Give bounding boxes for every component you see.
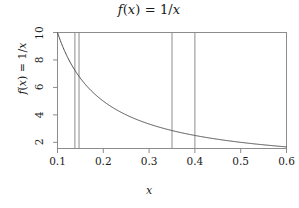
y-tick-label-4: 10 <box>32 21 46 45</box>
x-tick-label-0: 0.1 <box>38 155 78 167</box>
x-tick-label-3: 0.4 <box>175 155 215 167</box>
x-tick-label-2: 0.3 <box>129 155 169 167</box>
y-tick-label-2: 6 <box>32 75 46 99</box>
y-tick-label-0: 2 <box>32 130 46 154</box>
x-tick-label-5: 0.6 <box>267 155 299 167</box>
y-tick-label-3: 8 <box>32 48 46 72</box>
y-tick-label-1: 4 <box>32 103 46 127</box>
chart-figure: f(x) = 1/x f(x) = 1/x x 0.10.20.30.40.50… <box>0 0 298 208</box>
x-tick-label-4: 0.5 <box>221 155 261 167</box>
x-tick-label-1: 0.2 <box>83 155 123 167</box>
